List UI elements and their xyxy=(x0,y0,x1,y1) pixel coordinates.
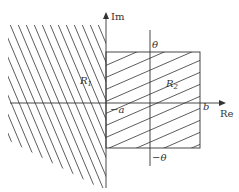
complex-plane-diagram: Im Re θ −θ −a b R1 R2 xyxy=(0,0,239,192)
region-r1-hatching xyxy=(0,10,180,192)
region-r2-label: R2 xyxy=(165,78,179,91)
theta-label: θ xyxy=(152,39,158,50)
neg-theta-label: −θ xyxy=(152,152,166,163)
region-r1-label: R1 xyxy=(79,75,92,88)
real-axis-arrow-icon xyxy=(219,100,226,106)
b-label: b xyxy=(203,101,209,112)
imaginary-axis-arrow-icon xyxy=(103,12,109,19)
neg-a-label: −a xyxy=(110,104,124,115)
imag-axis-label: Im xyxy=(111,11,125,22)
real-axis-label: Re xyxy=(220,108,234,119)
